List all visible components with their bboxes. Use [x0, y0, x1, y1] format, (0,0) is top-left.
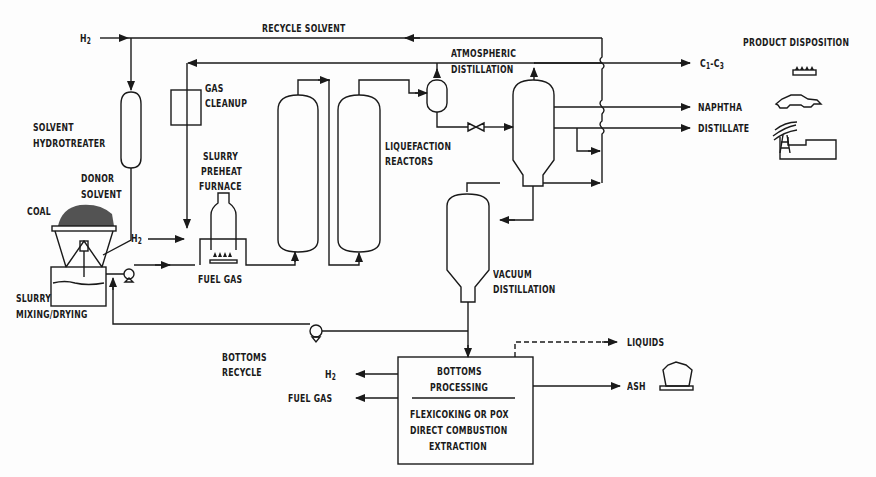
label-c1-c3: C1-C3	[700, 57, 724, 73]
label-donor-solvent-1: DONOR	[81, 172, 114, 184]
label-fuel-gas-furnace: FUEL GAS	[198, 273, 242, 285]
label-bottoms-opt-1: FLEXICOKING OR POX	[410, 408, 509, 420]
solvent-hydrotreater	[121, 92, 141, 168]
label-naphtha: NAPHTHA	[698, 101, 742, 113]
label-bottoms-recycle-1: BOTTOMS	[222, 351, 267, 363]
label-donor-solvent-2: SOLVENT	[81, 188, 122, 200]
label-coal: COAL	[27, 205, 51, 217]
label-liquefaction-1: LIQUEFACTION	[385, 140, 451, 152]
process-flow-diagram: H2 RECYCLE SOLVENT SOLVENT HYDROTREATER …	[0, 0, 876, 477]
label-fuel-gas-out: FUEL GAS	[288, 392, 332, 404]
label-product-disposition: PRODUCT DISPOSITION	[743, 36, 849, 48]
gas-burner-icon	[793, 70, 816, 75]
label-bottoms-box-2: PROCESSING	[430, 381, 488, 393]
label-slurry-mixing-1: SLURRY	[16, 292, 51, 304]
label-bottoms-opt-3: EXTRACTION	[429, 440, 487, 452]
label-liquids: LIQUIDS	[627, 336, 664, 348]
vacuum-distillation-column	[447, 194, 489, 302]
label-bottoms-recycle-2: RECYCLE	[222, 366, 262, 378]
label-liquefaction-2: REACTORS	[385, 155, 433, 167]
label-distillate: DISTILLATE	[698, 122, 749, 134]
label-solvent-hydrotreater-1: SOLVENT	[33, 121, 74, 133]
gas-cleanup-box	[171, 90, 201, 125]
coal-hopper-top	[52, 226, 116, 231]
label-ash: ASH	[627, 380, 646, 392]
label-atm-dist-2: DISTILLATION	[451, 63, 513, 75]
label-gas-cleanup-1: GAS	[205, 82, 224, 94]
coal-pile	[58, 205, 114, 226]
label-gas-cleanup-2: CLEANUP	[205, 97, 247, 109]
label-solvent-hydrotreater-2: HYDROTREATER	[33, 137, 105, 149]
label-bottoms-box-1: BOTTOMS	[437, 365, 482, 377]
car-icon	[776, 95, 821, 108]
ash-cart-icon	[663, 362, 692, 386]
liquefaction-reactor-2	[338, 95, 380, 252]
label-bottoms-opt-2: DIRECT COMBUSTION	[410, 424, 507, 436]
liquefaction-reactor-1	[278, 95, 318, 252]
label-furnace-2: PREHEAT	[201, 165, 242, 177]
label-vac-dist-2: DISTILLATION	[493, 283, 555, 295]
label-furnace-1: SLURRY	[203, 150, 238, 162]
label-h2-slurry: H2	[131, 232, 142, 248]
label-h2-feed: H2	[80, 32, 91, 48]
label-furnace-3: FURNACE	[199, 180, 242, 192]
slurry-mixing-tank	[51, 267, 106, 306]
atmospheric-distillation-column	[513, 80, 554, 186]
label-slurry-mixing-2: MIXING/DRYING	[16, 308, 88, 320]
label-vac-dist-1: VACUUM	[493, 268, 532, 280]
label-h2-out: H2	[325, 368, 336, 384]
slurry-preheat-furnace	[211, 193, 236, 250]
flash-separator	[427, 80, 447, 112]
label-atm-dist-1: ATMOSPHERIC	[451, 47, 516, 59]
label-recycle-solvent: RECYCLE SOLVENT	[262, 22, 346, 34]
